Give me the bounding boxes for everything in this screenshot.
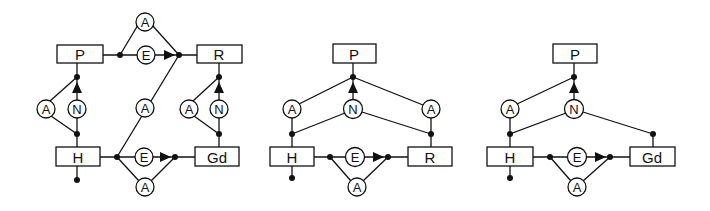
entity-h-label: H (505, 149, 516, 166)
junction-dot (216, 74, 222, 80)
junction-dot (385, 154, 391, 160)
arrow-up-icon (72, 82, 82, 93)
junction-dot (350, 74, 356, 80)
arrow-up-icon (348, 82, 358, 93)
junction-dot (176, 52, 182, 58)
arrow-right-icon (373, 152, 384, 162)
entity-p-label: P (349, 46, 359, 63)
diagram-canvas: P R H Gd A E A N A A N E A (0, 0, 710, 211)
node-mid-a-label: A (141, 101, 150, 116)
node-bot-a-label: A (573, 180, 582, 195)
edge-n-hdot (292, 113, 345, 134)
edge-pa-top (50, 77, 77, 101)
entity-p-label: P (75, 46, 85, 63)
arrow-up-icon (569, 82, 579, 93)
arrow-up-icon (214, 82, 224, 93)
edge-p-righta (353, 77, 423, 105)
node-p-a-label: A (42, 102, 51, 117)
node-bot-a-label: A (353, 180, 362, 195)
node-bot-e-label: E (573, 150, 582, 165)
entity-r-label: R (425, 149, 436, 166)
entity-h-label: H (287, 149, 298, 166)
junction-dot (172, 154, 178, 160)
diagram-left: P R H Gd A E A N A A N E A (37, 13, 242, 196)
entity-gd-label: Gd (642, 149, 662, 166)
junction-dot (114, 154, 120, 160)
junction-dot (74, 131, 80, 137)
junction-dot (74, 177, 80, 183)
edge-topa-dot (152, 25, 179, 55)
entity-p-label: P (570, 46, 580, 63)
node-p-n-label: N (72, 102, 81, 117)
edge-n-gddot (583, 112, 653, 134)
edge-p-lefta (517, 77, 574, 104)
arrow-right-icon (595, 152, 606, 162)
junction-dot (650, 131, 656, 137)
edge-ra-top (193, 77, 219, 101)
junction-dot (216, 131, 222, 137)
junction-dot (607, 154, 613, 160)
junction-dot (507, 131, 513, 137)
edge-n-hdot (510, 113, 566, 134)
edge-n-rdot (362, 112, 431, 134)
node-n-label: N (569, 102, 578, 117)
junction-dot (117, 52, 123, 58)
node-bot-e-label: E (140, 150, 149, 165)
node-bot-e-label: E (351, 150, 360, 165)
node-left-a-label: A (288, 102, 297, 117)
node-right-a-label: A (427, 102, 436, 117)
entity-gd-label: Gd (207, 149, 227, 166)
arrow-right-icon (160, 152, 171, 162)
node-r-a-label: A (185, 102, 194, 117)
junction-dot (507, 175, 513, 181)
junction-dot (74, 74, 80, 80)
junction-dot (289, 131, 295, 137)
diagram-middle: P H R A N A E A (270, 44, 452, 196)
edge-dot-topa (120, 25, 138, 55)
node-left-a-label: A (506, 102, 515, 117)
node-top-e-label: E (142, 48, 151, 63)
junction-dot (327, 154, 333, 160)
node-bot-a-label: A (141, 180, 150, 195)
edge-ra-bot (194, 116, 219, 134)
junction-dot (289, 175, 295, 181)
node-top-a-label: A (141, 15, 150, 30)
edge-p-lefta (299, 77, 353, 104)
junction-dot (547, 154, 553, 160)
junction-dot (428, 131, 434, 137)
arrow-right-icon (164, 50, 175, 60)
entity-h-label: H (73, 149, 84, 166)
junction-dot (571, 74, 577, 80)
edge-pa-bot (51, 116, 77, 134)
diagram-right: P H Gd A N E A (487, 44, 675, 196)
entity-r-label: R (214, 46, 225, 63)
node-n-label: N (348, 102, 357, 117)
node-r-n-label: N (214, 102, 223, 117)
